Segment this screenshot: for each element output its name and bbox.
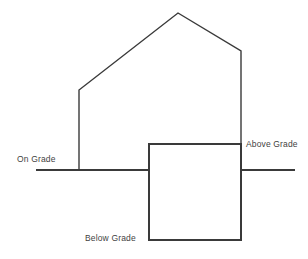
below-grade-label: Below Grade — [85, 233, 136, 243]
diagram-canvas: On Grade Above Grade Below Grade — [0, 0, 308, 259]
house-outline — [79, 13, 241, 240]
above-grade-label: Above Grade — [246, 139, 298, 149]
on-grade-label: On Grade — [17, 154, 56, 164]
house-grade-diagram — [0, 0, 308, 259]
basement-rectangle — [149, 144, 241, 240]
